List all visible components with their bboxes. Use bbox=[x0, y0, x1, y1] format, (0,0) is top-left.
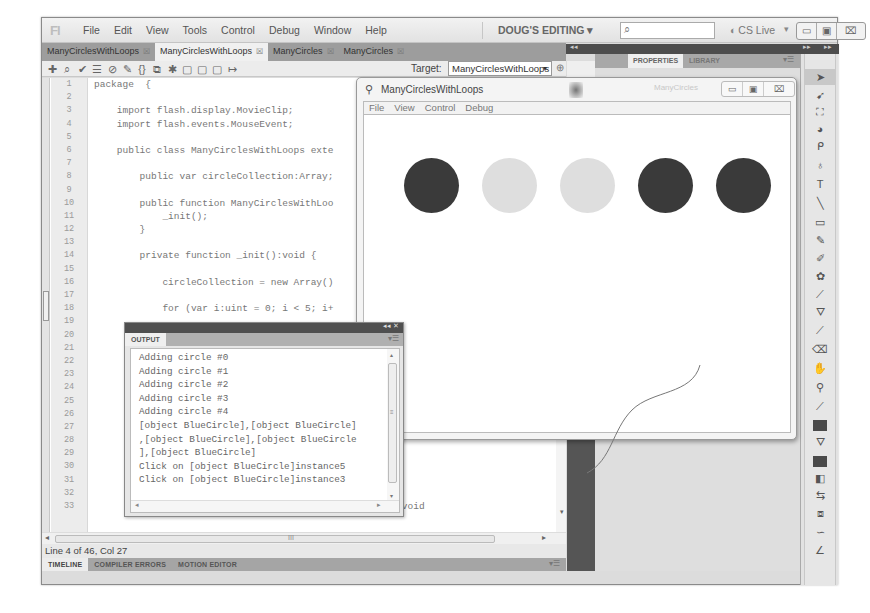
show-hide-toolbox-icon[interactable]: ↦ bbox=[226, 62, 238, 76]
swap-colors-icon[interactable]: ⇆ bbox=[805, 487, 835, 503]
add-statement-icon[interactable]: ✚ bbox=[46, 62, 58, 76]
maximize-button[interactable]: ▣ bbox=[817, 23, 837, 39]
tab-compiler-errors[interactable]: COMPILER ERRORS bbox=[88, 558, 172, 571]
scroll-thumb[interactable] bbox=[388, 363, 397, 483]
minimize-button[interactable]: ▭ bbox=[797, 23, 817, 39]
straighten-icon[interactable]: ∠ bbox=[805, 542, 835, 558]
collapse-selection-icon[interactable]: ⧉ bbox=[151, 62, 163, 76]
help-search-input[interactable]: ⌕ bbox=[620, 22, 715, 39]
editor-horizontal-scrollbar[interactable]: ◂ III ▸ bbox=[42, 532, 566, 544]
subselection-tool-icon[interactable]: ➹ bbox=[805, 87, 835, 103]
maximize-button[interactable]: ▣ bbox=[743, 82, 764, 96]
close-tab-icon[interactable]: ☒ bbox=[143, 47, 150, 56]
expand-tools-icon[interactable]: ▸▸ bbox=[824, 43, 832, 51]
eraser-tool-icon[interactable]: ⌫ bbox=[805, 341, 835, 357]
doc-tab-4[interactable]: ManyCircles☒ bbox=[339, 43, 410, 61]
panel-menu-icon[interactable]: ▾☰ bbox=[388, 334, 399, 343]
free-transform-tool-icon[interactable]: ⛶ bbox=[805, 104, 835, 120]
paint-bucket-tool-icon[interactable]: ⛛ bbox=[805, 304, 835, 320]
collapse-between-braces-icon[interactable]: {} bbox=[136, 62, 148, 76]
player-menu-control[interactable]: Control bbox=[420, 102, 461, 114]
fill-color-swatch[interactable] bbox=[805, 452, 835, 468]
cs-live-button[interactable]: ◐CS Live bbox=[730, 24, 775, 36]
menu-debug[interactable]: Debug bbox=[262, 24, 307, 36]
remove-comment-icon[interactable]: ▢ bbox=[211, 62, 223, 76]
output-panel-controls[interactable]: ◂◂ ✕ bbox=[383, 322, 399, 330]
doc-tab-1[interactable]: ManyCirclesWithLoops☒ bbox=[42, 43, 155, 61]
apply-block-comment-icon[interactable]: ▢ bbox=[181, 62, 193, 76]
scroll-right-icon[interactable]: ▸ bbox=[542, 533, 546, 542]
menu-view[interactable]: View bbox=[139, 24, 176, 36]
scroll-down-icon[interactable]: ▾ bbox=[390, 492, 393, 499]
eyedropper-tool-icon[interactable]: ⟋ bbox=[805, 322, 835, 338]
scroll-left-icon[interactable]: ◂ bbox=[45, 533, 49, 542]
menu-window[interactable]: Window bbox=[307, 24, 358, 36]
auto-format-icon[interactable]: ☰ bbox=[91, 62, 103, 76]
snap-to-objects-icon[interactable]: ⧈ bbox=[805, 505, 835, 521]
3d-rotation-tool-icon[interactable]: ◕ bbox=[805, 121, 835, 137]
scroll-down-icon[interactable]: ▾ bbox=[560, 508, 564, 516]
fill-color-bucket-icon[interactable]: ⛛ bbox=[805, 434, 835, 450]
brush-tool-icon[interactable]: ✐ bbox=[805, 250, 835, 266]
smooth-icon[interactable]: ∽ bbox=[805, 524, 835, 540]
tab-library[interactable]: LIBRARY bbox=[684, 54, 725, 68]
panel-menu-icon[interactable]: ▾☰ bbox=[549, 559, 560, 568]
expand-panels-icon[interactable]: ▸▸ bbox=[803, 43, 811, 51]
blue-circle-instance[interactable] bbox=[404, 158, 459, 213]
tab-output[interactable]: OUTPUT bbox=[125, 333, 166, 346]
code-hint-icon[interactable]: ⊘ bbox=[106, 62, 118, 76]
player-menu-file[interactable]: File bbox=[364, 102, 389, 114]
close-button[interactable]: ⌧ bbox=[837, 23, 865, 39]
collapse-panels-icon[interactable]: ◂◂ bbox=[570, 43, 578, 51]
pen-tool-icon[interactable]: ♁ bbox=[805, 157, 835, 173]
apply-line-comment-icon[interactable]: ▢ bbox=[196, 62, 208, 76]
scroll-up-icon[interactable]: ▴ bbox=[390, 351, 393, 358]
tab-timeline[interactable]: TIMELINE bbox=[42, 558, 88, 571]
black-white-icon[interactable]: ◧ bbox=[805, 470, 835, 486]
stroke-color-swatch[interactable] bbox=[805, 416, 835, 432]
output-vertical-scrollbar[interactable]: ▴ ≡ ▾ bbox=[387, 349, 399, 501]
stroke-color-pencil-icon[interactable]: ⟋ bbox=[805, 398, 835, 414]
menu-edit[interactable]: Edit bbox=[107, 24, 139, 36]
output-panel-header[interactable]: ◂◂ ✕ bbox=[125, 323, 403, 333]
check-syntax-icon[interactable]: ✔ bbox=[76, 62, 88, 76]
hand-tool-icon[interactable]: ✋ bbox=[805, 360, 835, 376]
blue-circle-instance[interactable] bbox=[638, 158, 693, 213]
close-tab-icon[interactable]: ☒ bbox=[327, 47, 334, 56]
text-tool-icon[interactable]: T bbox=[805, 176, 835, 192]
pin-target-icon[interactable]: ⊕ bbox=[556, 62, 564, 73]
target-select[interactable]: ManyCirclesWithLoops▾ bbox=[448, 61, 552, 76]
cs-live-dropdown[interactable]: ▾ bbox=[784, 24, 789, 34]
blue-circle-instance[interactable] bbox=[482, 158, 537, 213]
workspace-switcher[interactable]: DOUG'S EDITING ▾ bbox=[498, 24, 593, 36]
doc-tab-3[interactable]: ManyCircles☒ bbox=[268, 43, 339, 61]
blue-circle-instance[interactable] bbox=[560, 158, 615, 213]
tab-properties[interactable]: PROPERTIES bbox=[628, 54, 683, 68]
panel-menu-icon[interactable]: ▾☰ bbox=[783, 55, 794, 64]
doc-tab-2[interactable]: ManyCirclesWithLoops☒ bbox=[155, 43, 268, 61]
scroll-right-icon[interactable]: ▸ bbox=[377, 501, 381, 509]
menu-file[interactable]: File bbox=[76, 24, 107, 36]
tab-motion-editor[interactable]: MOTION EDITOR bbox=[172, 558, 243, 571]
rectangle-tool-icon[interactable]: ▭ bbox=[805, 214, 835, 230]
scroll-thumb[interactable]: III bbox=[55, 535, 495, 543]
zoom-tool-icon[interactable]: ⚲ bbox=[805, 379, 835, 395]
debug-options-icon[interactable]: ✎ bbox=[121, 62, 133, 76]
bone-tool-icon[interactable]: ⟋ bbox=[805, 286, 835, 302]
player-menu-debug[interactable]: Debug bbox=[460, 102, 498, 114]
expand-all-icon[interactable]: ✱ bbox=[166, 62, 178, 76]
collapse-handle[interactable] bbox=[43, 291, 49, 321]
output-horizontal-scrollbar[interactable]: ◂ ▸ bbox=[131, 500, 399, 512]
close-tab-icon[interactable]: ☒ bbox=[397, 47, 404, 56]
lasso-tool-icon[interactable]: ᑭ bbox=[805, 138, 835, 154]
blue-circle-instance[interactable] bbox=[716, 158, 771, 213]
menu-tools[interactable]: Tools bbox=[176, 24, 215, 36]
menu-control[interactable]: Control bbox=[214, 24, 262, 36]
find-icon[interactable]: ⌕ bbox=[61, 62, 73, 76]
deco-tool-icon[interactable]: ✿ bbox=[805, 268, 835, 284]
line-tool-icon[interactable]: ╲ bbox=[805, 195, 835, 211]
pencil-tool-icon[interactable]: ✎ bbox=[805, 232, 835, 248]
menu-help[interactable]: Help bbox=[358, 24, 394, 36]
output-text-area[interactable]: Adding circle #0Adding circle #1Adding c… bbox=[130, 348, 400, 513]
close-tab-icon[interactable]: ☒ bbox=[256, 47, 263, 56]
